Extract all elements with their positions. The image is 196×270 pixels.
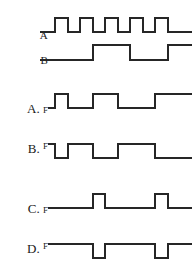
waveform-option-a-path — [48, 94, 192, 108]
option-row-a[interactable]: A. F — [0, 82, 196, 118]
waveform-b-path — [40, 45, 192, 60]
option-row-c[interactable]: C. F — [0, 182, 196, 218]
option-row-d[interactable]: D. F — [0, 232, 196, 268]
waveform-option-d — [0, 232, 196, 268]
waveform-option-b — [0, 132, 196, 168]
signal-row-b: B — [0, 34, 196, 70]
waveform-option-c — [0, 182, 196, 218]
waveform-b — [0, 34, 196, 70]
waveform-option-c-path — [48, 194, 192, 208]
waveform-option-d-path — [48, 244, 192, 258]
option-row-b[interactable]: B. F — [0, 132, 196, 168]
waveform-option-b-path — [48, 144, 192, 158]
waveform-option-a — [0, 82, 196, 118]
timing-diagram-figure: A B A. F B. F C. — [0, 0, 196, 270]
waveform-a-path — [40, 18, 192, 32]
